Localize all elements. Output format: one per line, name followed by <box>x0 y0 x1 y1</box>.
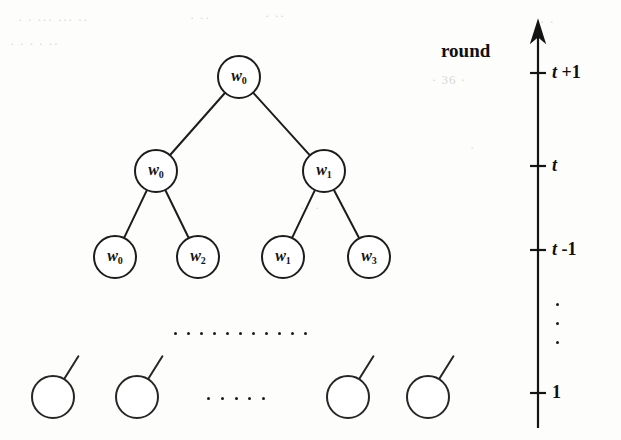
node-root-label: w0 <box>231 68 247 84</box>
node-leaf-0-subscript: 0 <box>118 255 123 266</box>
tick-t-plus-1-offset: +1 <box>557 62 581 82</box>
node-t-right-subscript: 1 <box>327 169 332 180</box>
bottom-row-ellipsis-dot-5 <box>262 397 265 400</box>
tick-t-minus-1-offset: -1 <box>557 239 577 259</box>
node-root: w0 <box>217 55 261 99</box>
tree-gap-ellipsis-dot-7 <box>252 332 255 335</box>
tree-edge-node-root-to-node-t-left <box>171 93 225 154</box>
tree-gap-ellipsis-dot-11 <box>304 332 307 335</box>
figure-canvas: · · ··· ··· ··· · · · ·· · ··· ··· 36 ··… <box>0 0 621 440</box>
tree-gap-ellipsis-dot-6 <box>239 332 242 335</box>
tree-gap-ellipsis-dot-5 <box>226 332 229 335</box>
tick-t-label: t <box>552 155 557 176</box>
node-t-left-subscript: 0 <box>159 169 164 180</box>
node-leaf-1-subscript: 1 <box>286 255 291 266</box>
node-root-subscript: 0 <box>242 75 247 86</box>
bottom-row-ellipsis-dot-1 <box>207 397 210 400</box>
tree-gap-ellipsis-dot-8 <box>265 332 268 335</box>
bottom-row-ellipsis-dot-2 <box>221 397 224 400</box>
axis-ellipsis-dot-1 <box>556 303 559 306</box>
axis-ellipsis-dot-3 <box>556 341 559 344</box>
node-leaf-2: w2 <box>176 235 220 279</box>
tree-gap-ellipsis-dot-10 <box>291 332 294 335</box>
tree-gap-ellipsis-dot-1 <box>174 332 177 335</box>
tree-edge-node-root-to-node-t-right <box>254 93 309 154</box>
bottom-node-3 <box>326 375 370 419</box>
node-leaf-2-subscript: 2 <box>201 255 206 266</box>
bottom-node-stem-layer <box>65 356 454 378</box>
tree-gap-ellipsis-dot-3 <box>200 332 203 335</box>
node-t-left-label: w0 <box>148 162 164 178</box>
bottom-node-4 <box>406 375 450 419</box>
figure-vector-layer <box>0 0 621 440</box>
tick-1-label: 1 <box>552 382 561 403</box>
node-t-right-label: w1 <box>316 162 332 178</box>
tree-edge-node-t-left-to-node-leaf-2 <box>166 191 189 237</box>
node-leaf-1-label: w1 <box>275 248 291 264</box>
tick-t-base: t <box>552 155 557 175</box>
node-leaf-3: w3 <box>347 235 391 279</box>
round-axis-caption: round <box>441 40 490 62</box>
node-leaf-3-subscript: 3 <box>372 255 377 266</box>
tick-t-minus-1-label: t -1 <box>552 239 577 260</box>
bottom-node-3-stem <box>360 356 374 378</box>
bottom-node-1 <box>31 375 75 419</box>
node-leaf-2-label: w2 <box>190 248 206 264</box>
tree-gap-ellipsis-dot-9 <box>278 332 281 335</box>
axis-ellipsis-dot-2 <box>556 322 559 325</box>
node-leaf-1: w1 <box>261 235 305 279</box>
node-leaf-3-label: w3 <box>361 248 377 264</box>
bottom-node-2 <box>115 375 159 419</box>
node-leaf-0-label: w0 <box>107 248 123 264</box>
tree-edge-node-t-left-to-node-leaf-0 <box>124 191 146 237</box>
round-axis-line-layer <box>532 22 544 428</box>
bottom-node-4-stem <box>440 356 454 378</box>
tree-edge-node-t-right-to-node-leaf-3 <box>334 190 359 237</box>
tree-gap-ellipsis-dot-4 <box>213 332 216 335</box>
tree-gap-ellipsis-dot-2 <box>187 332 190 335</box>
tick-t-plus-1-label: t +1 <box>552 62 581 83</box>
node-t-right: w1 <box>302 149 346 193</box>
tree-edge-node-t-right-to-node-leaf-1 <box>292 191 314 237</box>
bottom-node-2-stem <box>149 356 163 378</box>
bottom-node-1-stem <box>65 356 79 378</box>
node-leaf-0: w0 <box>93 235 137 279</box>
bottom-row-ellipsis-dot-3 <box>235 397 238 400</box>
node-t-left: w0 <box>134 149 178 193</box>
